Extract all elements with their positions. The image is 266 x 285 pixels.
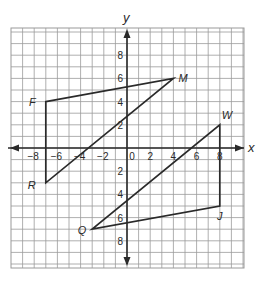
y-tick-label: 8 <box>117 236 123 247</box>
y-tick-label: 6 <box>117 73 123 84</box>
triangle-WJQ <box>92 125 220 229</box>
x-axis-label: x <box>247 140 255 155</box>
y-tick-label: 4 <box>117 97 123 108</box>
y-axis-arrow-down-icon <box>124 257 131 266</box>
y-tick-label: 6 <box>117 213 123 224</box>
y-axis-arrow-up-icon <box>124 29 131 38</box>
x-tick-label: −2 <box>97 151 109 162</box>
axes <box>8 29 244 266</box>
x-tick-label: −8 <box>27 151 39 162</box>
point-label-j: J <box>216 210 223 222</box>
x-tick-label: 0 <box>129 151 135 162</box>
y-tick-label: 8 <box>117 50 123 61</box>
x-tick-label: 6 <box>194 151 200 162</box>
triangle-FMR <box>46 78 174 182</box>
point-label-q: Q <box>78 224 87 236</box>
point-label-m: M <box>178 72 188 84</box>
point-label-r: R <box>28 179 36 191</box>
x-tick-label: 2 <box>147 151 153 162</box>
x-tick-label: −6 <box>51 151 63 162</box>
coordinate-plane: −8−6−4−20246886422468 FMRWJQ x y <box>0 0 266 285</box>
y-axis-label: y <box>122 10 131 25</box>
y-tick-label: 2 <box>117 166 123 177</box>
y-tick-label: 4 <box>117 189 123 200</box>
coordinate-plane-figure: −8−6−4−20246886422468 FMRWJQ x y <box>0 0 266 285</box>
point-label-w: W <box>222 109 234 121</box>
